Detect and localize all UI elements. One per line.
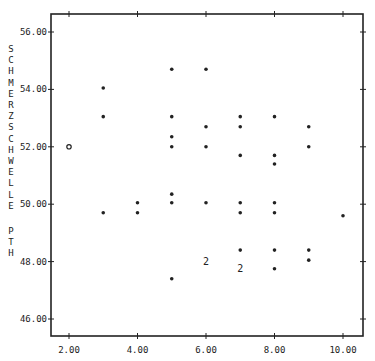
x-tick-label: 10.00 bbox=[329, 345, 356, 355]
data-point bbox=[170, 201, 174, 205]
data-point bbox=[170, 277, 174, 281]
data-point bbox=[273, 248, 277, 252]
y-tick-label: 46.00 bbox=[20, 314, 47, 324]
scatter-plot: 2.004.006.008.0010.00 46.0048.0050.0052.… bbox=[0, 0, 375, 361]
data-point bbox=[170, 135, 174, 139]
data-point bbox=[273, 267, 277, 271]
data-point bbox=[341, 214, 345, 218]
data-point bbox=[307, 145, 311, 149]
y-tick-label: 48.00 bbox=[20, 257, 47, 267]
data-point-count: 2 bbox=[203, 256, 209, 267]
data-point bbox=[101, 115, 105, 119]
data-point bbox=[273, 201, 277, 205]
data-point bbox=[307, 125, 311, 129]
data-point bbox=[238, 154, 242, 158]
data-point bbox=[238, 201, 242, 205]
data-points: 22 bbox=[67, 68, 345, 281]
y-tick-label: 52.00 bbox=[20, 142, 47, 152]
data-point bbox=[238, 211, 242, 215]
data-point bbox=[170, 145, 174, 149]
data-point bbox=[238, 248, 242, 252]
data-point bbox=[204, 68, 208, 72]
plot-border bbox=[51, 14, 363, 336]
data-point bbox=[238, 125, 242, 129]
x-tick-label: 8.00 bbox=[264, 345, 286, 355]
data-point bbox=[204, 145, 208, 149]
x-tick-label: 6.00 bbox=[195, 345, 217, 355]
data-point bbox=[136, 201, 140, 205]
data-point-count: 2 bbox=[237, 263, 243, 274]
y-tick-label: 54.00 bbox=[20, 84, 47, 94]
y-tick-label: 50.00 bbox=[20, 199, 47, 209]
data-point bbox=[238, 115, 242, 119]
data-point bbox=[101, 211, 105, 215]
data-point bbox=[204, 125, 208, 129]
data-point bbox=[273, 211, 277, 215]
data-point-open bbox=[67, 145, 71, 149]
data-point bbox=[101, 86, 105, 90]
data-point bbox=[170, 68, 174, 72]
y-axis-ticks: 46.0048.0050.0052.0054.0056.00 bbox=[20, 27, 366, 324]
data-point bbox=[136, 211, 140, 215]
data-point bbox=[307, 248, 311, 252]
data-point bbox=[273, 154, 277, 158]
x-tick-label: 4.00 bbox=[127, 345, 149, 355]
data-point bbox=[170, 192, 174, 196]
data-point bbox=[204, 201, 208, 205]
data-point bbox=[273, 162, 277, 166]
y-tick-label: 56.00 bbox=[20, 27, 47, 37]
data-point bbox=[307, 258, 311, 262]
data-point bbox=[170, 115, 174, 119]
x-tick-label: 2.00 bbox=[58, 345, 80, 355]
plot-frame bbox=[51, 14, 363, 336]
data-point bbox=[273, 115, 277, 119]
x-axis-ticks: 2.004.006.008.0010.00 bbox=[58, 11, 356, 355]
